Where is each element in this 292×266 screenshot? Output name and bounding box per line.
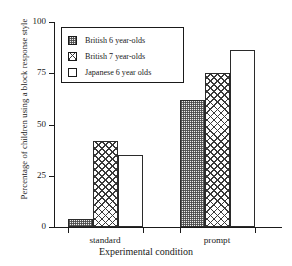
legend-label-british6: British 6 year-olds [85,36,145,45]
y-axis-line [54,22,55,227]
x-tick-2 [180,227,181,233]
y-tick-label-100: 100 [33,16,47,26]
legend-label-british7: British 7 year-olds [85,52,145,61]
bar-chart: Percentage of children using a block res… [0,0,292,266]
bar-standard-japanese6 [118,155,143,227]
y-tick-100: 100 [49,22,54,23]
bar-standard-british7 [93,141,118,227]
y-tick-label-0: 0 [42,221,47,231]
bar-prompt-british6 [180,100,205,227]
y-tick-label-75: 75 [37,67,46,77]
y-tick-50: 50 [49,125,54,126]
y-tick-label-50: 50 [37,119,46,129]
x-axis-line [54,227,282,228]
x-tick-0 [68,227,69,233]
legend-entry-british7: British 7 year-olds [68,50,145,62]
cross-hatch-swatch-icon [68,52,77,61]
legend-entry-british6: British 6 year-olds [68,34,145,46]
bar-standard-british6 [68,219,93,227]
x-tick-3 [255,227,256,233]
y-tick-label-25: 25 [37,170,46,180]
x-axis-title: Experimental condition [0,246,292,257]
x-tick-1 [143,227,144,233]
y-tick-25: 25 [49,176,54,177]
white-swatch-icon [68,68,77,77]
legend-label-japanese6: Japanese 6 year olds [85,68,151,77]
legend-entry-japanese6: Japanese 6 year olds [68,66,151,78]
x-group-label-prompt: prompt [204,235,231,245]
bar-prompt-japanese6 [230,50,255,227]
y-tick-0: 0 [49,227,54,228]
y-tick-75: 75 [49,73,54,74]
dotted-swatch-icon [68,36,77,45]
x-group-label-standard: standard [89,235,120,245]
legend: British 6 year-olds British 7 year-olds … [61,27,184,83]
y-axis-title: Percentage of children using a block res… [19,0,29,219]
bar-prompt-british7 [205,73,230,227]
